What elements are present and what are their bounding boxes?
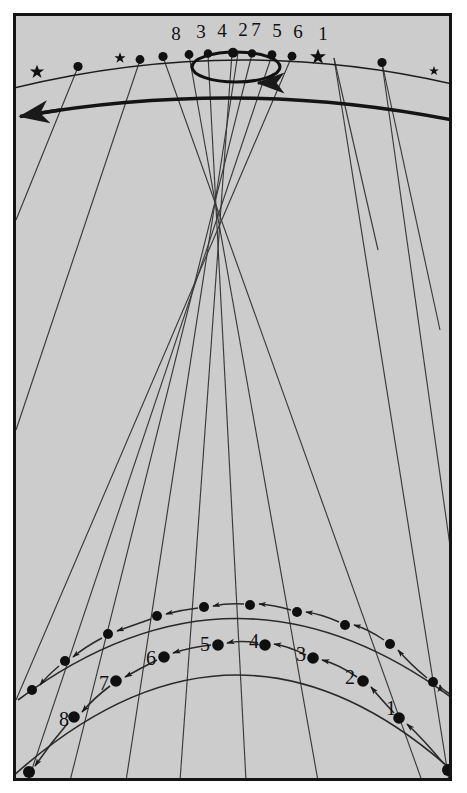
bottom-label-5: 5 bbox=[200, 633, 210, 655]
top-label-1: 1 bbox=[318, 23, 328, 44]
top-label-2: 2 bbox=[238, 19, 248, 40]
arc-dot bbox=[27, 685, 37, 695]
arc-dot bbox=[199, 602, 209, 612]
arc-dot-8 bbox=[68, 711, 80, 723]
top-label-3: 3 bbox=[196, 21, 206, 42]
arc-dot-7 bbox=[110, 675, 122, 687]
top-label-5: 5 bbox=[272, 20, 282, 41]
arc-dot-5 bbox=[212, 639, 224, 651]
arc-dot bbox=[340, 620, 350, 630]
arc-dot-3 bbox=[307, 652, 319, 664]
arc-dot-4 bbox=[259, 639, 271, 651]
arc-dot bbox=[60, 656, 70, 666]
arc-dot-2 bbox=[357, 675, 369, 687]
arc-dot bbox=[385, 639, 395, 649]
bottom-label-8: 8 bbox=[59, 708, 69, 730]
arc-dot bbox=[73, 62, 82, 71]
arc-dot bbox=[428, 677, 438, 687]
plate-background bbox=[15, 15, 451, 780]
arc-dot bbox=[377, 58, 386, 67]
bottom-label-4: 4 bbox=[249, 630, 259, 652]
arc-dot bbox=[136, 55, 145, 64]
arc-dot-1 bbox=[288, 52, 297, 61]
bottom-label-3: 3 bbox=[296, 643, 306, 665]
arc-dot bbox=[245, 600, 255, 610]
arc-dot-8 bbox=[158, 52, 167, 61]
top-label-6: 6 bbox=[293, 21, 303, 42]
bottom-label-2: 2 bbox=[345, 666, 355, 688]
bottom-label-1: 1 bbox=[386, 697, 396, 719]
arc-dot-3 bbox=[185, 50, 194, 59]
arc-dot bbox=[103, 629, 113, 639]
arc-dot bbox=[292, 607, 302, 617]
arc-dot bbox=[152, 611, 162, 621]
top-label-7: 7 bbox=[251, 19, 261, 40]
arc-dot-6 bbox=[158, 651, 170, 663]
top-label-4: 4 bbox=[217, 20, 227, 41]
figure-diagram: 8 3 4 2 7 5 6 1 1 2 3 4 5 6 7 8 bbox=[0, 0, 467, 793]
top-label-8: 8 bbox=[171, 23, 181, 44]
arc-dot bbox=[23, 766, 35, 778]
bottom-label-7: 7 bbox=[99, 672, 109, 694]
bottom-label-6: 6 bbox=[146, 647, 156, 669]
